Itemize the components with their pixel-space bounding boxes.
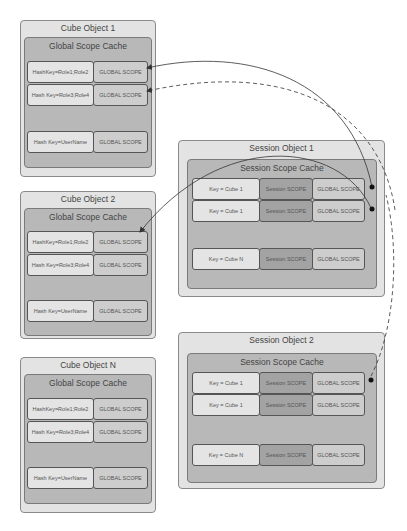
- link-endpoint-dot: [370, 207, 375, 212]
- solid-link-arrow: [140, 156, 371, 232]
- link-endpoint-dot: [370, 185, 375, 190]
- connector-lines: [0, 0, 407, 531]
- link-endpoint-dot: [369, 378, 374, 383]
- dashed-link-arrow: [371, 195, 394, 376]
- solid-link-arrow: [147, 61, 372, 187]
